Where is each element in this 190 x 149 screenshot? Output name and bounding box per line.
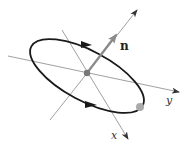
center-point — [84, 70, 90, 76]
x-axis-label: x — [111, 129, 118, 142]
y-axis-label: y — [165, 94, 173, 107]
loop-direction-arrow-top — [81, 41, 92, 48]
loop-point — [136, 103, 144, 111]
normal-label: n — [120, 39, 129, 53]
loop-diagram: n y x — [0, 0, 190, 149]
normal-vector-n — [87, 35, 116, 73]
x-axis-line — [62, 30, 128, 139]
